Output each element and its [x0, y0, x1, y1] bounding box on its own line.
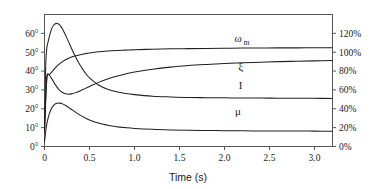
plot-frame — [45, 15, 333, 147]
y-left-tick-label: 20° — [25, 104, 39, 114]
axis-ticks — [41, 33, 336, 150]
x-tick-label: 3.0 — [309, 153, 321, 163]
data-curves — [45, 23, 333, 141]
y-right-tick-label: 100% — [339, 48, 361, 58]
curve-label-μ: μ — [235, 105, 241, 117]
x-tick-label: 2.5 — [264, 153, 276, 163]
y-right-tick-label: 40% — [339, 104, 357, 114]
chart-figure: 00.51.01.52.02.53.00°10°20°30°40°50°60°0… — [0, 0, 383, 189]
y-right-tick-label: 0% — [339, 142, 352, 152]
x-tick-label: 2.0 — [219, 153, 231, 163]
curve-label-text: ω — [234, 32, 241, 44]
x-tick-label: 1.5 — [174, 153, 186, 163]
curve-label-I: I — [239, 79, 243, 91]
x-tick-label: 0.5 — [84, 153, 96, 163]
y-left-tick-label: 0° — [30, 142, 39, 152]
y-right-tick-label: 120% — [339, 29, 361, 39]
x-tick-label: 0 — [42, 153, 47, 163]
y-left-tick-label: 60° — [25, 29, 39, 39]
y-right-tick-label: 20% — [339, 123, 357, 133]
y-right-tick-label: 80% — [339, 66, 357, 76]
curve-μ — [45, 103, 333, 142]
curve-label-text: ξ — [238, 60, 243, 73]
y-left-tick-label: 40° — [25, 66, 39, 76]
x-axis-title: Time (s) — [169, 171, 207, 183]
curve-ξ — [45, 61, 333, 132]
curve-I — [45, 23, 333, 131]
curve-label-subscript: m — [244, 38, 250, 47]
curve-label-text: μ — [235, 105, 241, 117]
x-tick-label: 1.0 — [129, 153, 141, 163]
curve-label-text: I — [239, 79, 243, 91]
curve-label-ξ: ξ — [238, 60, 243, 73]
y-left-tick-label: 50° — [25, 48, 39, 58]
curve-labels: ωmξIμ — [234, 32, 249, 118]
y-left-tick-label: 10° — [25, 123, 39, 133]
y-left-tick-label: 30° — [25, 85, 39, 95]
curve-label-ωm: ωm — [234, 32, 249, 47]
y-right-tick-label: 60% — [339, 85, 357, 95]
